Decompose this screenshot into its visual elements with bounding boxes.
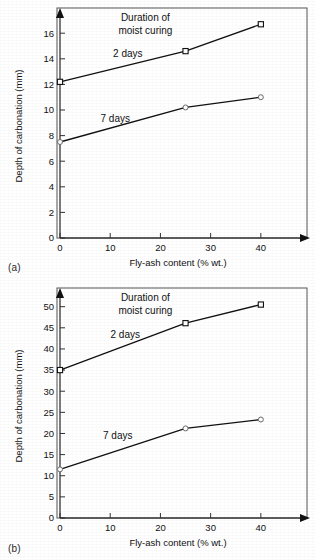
y-axis-tick-label: 5: [49, 491, 54, 502]
y-axis-tick-label: 35: [43, 364, 54, 375]
data-point-marker: [58, 140, 63, 145]
chart-b-svg: 01020304005101520253035404550Fly-ash con…: [0, 280, 316, 560]
x-axis-tick-label: 10: [105, 242, 116, 253]
x-axis-tick-label: 20: [155, 522, 166, 533]
annotation-title-line2: moist curing: [118, 305, 172, 316]
y-axis-tick-label: 14: [43, 53, 54, 64]
figure-caption-b: (b): [8, 543, 21, 554]
annotation-title-line1: Duration of: [121, 12, 170, 23]
y-axis-tick-label: 12: [43, 79, 54, 90]
y-axis-tick-label: 8: [49, 130, 54, 141]
data-line-7-days: [60, 97, 261, 142]
data-point-marker: [183, 321, 188, 326]
y-axis-tick-label: 10: [43, 104, 54, 115]
data-line-7-days: [60, 420, 261, 470]
x-axis-title: Fly-ash content (% wt.): [129, 257, 226, 268]
x-axis-arrow-icon: [300, 234, 310, 242]
y-axis-tick-label: 10: [43, 470, 54, 481]
x-axis-arrow-icon: [300, 514, 310, 522]
y-axis-tick-label: 30: [43, 386, 54, 397]
data-point-marker: [258, 417, 263, 422]
x-axis-tick-label: 10: [105, 522, 116, 533]
y-axis-tick-label: 20: [43, 428, 54, 439]
x-axis-tick-label: 30: [205, 242, 216, 253]
y-axis-tick-label: 50: [43, 301, 54, 312]
x-axis-tick-label: 30: [205, 522, 216, 533]
x-axis-title: Fly-ash content (% wt.): [129, 537, 226, 548]
series-label-2-days: 2 days: [111, 329, 140, 340]
y-axis-tick-label: 15: [43, 449, 54, 460]
x-axis-tick-label: 0: [57, 242, 62, 253]
y-axis-tick-label: 0: [49, 512, 54, 523]
data-point-marker: [183, 426, 188, 431]
x-axis-tick-label: 40: [256, 522, 267, 533]
data-point-marker: [258, 302, 263, 307]
x-axis-tick-label: 20: [155, 242, 166, 253]
x-axis-tick-label: 0: [57, 522, 62, 533]
chart-panel-a: 0102030400246810121416Fly-ash content (%…: [0, 0, 316, 280]
series-label-2-days: 2 days: [113, 48, 142, 59]
y-axis-tick-label: 45: [43, 322, 54, 333]
data-point-marker: [258, 95, 263, 100]
y-axis-title: Depth of carbonation (mm): [13, 350, 24, 463]
series-label-7-days: 7 days: [103, 430, 132, 441]
y-axis-title: Depth of carbonation (mm): [13, 70, 24, 183]
plot-frame: [57, 8, 307, 238]
y-axis-tick-label: 25: [43, 407, 54, 418]
x-axis-tick-label: 40: [256, 242, 267, 253]
y-axis-tick-label: 40: [43, 343, 54, 354]
y-axis-tick-label: 0: [49, 232, 54, 243]
data-point-marker: [57, 79, 62, 84]
y-axis-tick-label: 6: [49, 156, 54, 167]
data-point-marker: [58, 467, 63, 472]
series-label-7-days: 7 days: [100, 113, 129, 124]
data-point-marker: [258, 22, 263, 27]
annotation-title-line1: Duration of: [121, 292, 170, 303]
plot-frame: [57, 288, 307, 518]
data-point-marker: [57, 367, 62, 372]
chart-a-svg: 0102030400246810121416Fly-ash content (%…: [0, 0, 316, 280]
annotation-title-line2: moist curing: [118, 25, 172, 36]
y-axis-tick-label: 16: [43, 28, 54, 39]
data-point-marker: [183, 105, 188, 110]
data-point-marker: [183, 49, 188, 54]
figure-caption-a: (a): [8, 262, 21, 273]
y-axis-tick-label: 4: [49, 181, 54, 192]
y-axis-tick-label: 2: [49, 207, 54, 218]
chart-panel-b: 01020304005101520253035404550Fly-ash con…: [0, 280, 316, 560]
